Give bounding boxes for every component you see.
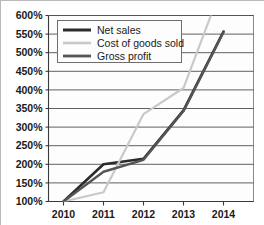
x-tick-label: 2010 bbox=[52, 208, 76, 220]
legend-label: Cost of goods sold bbox=[97, 37, 184, 49]
y-tick-label: 300% bbox=[16, 121, 44, 133]
y-tick-label: 450% bbox=[16, 65, 44, 77]
y-tick-label: 250% bbox=[16, 139, 44, 151]
x-tick-label: 2014 bbox=[212, 208, 236, 220]
x-tick-label: 2011 bbox=[92, 208, 115, 220]
y-tick-label: 350% bbox=[16, 102, 44, 114]
y-tick-label: 200% bbox=[16, 158, 44, 170]
y-axis-tick-labels: 100%150%200%250%300%350%400%450%500%550%… bbox=[16, 9, 44, 207]
x-tick-label: 2012 bbox=[132, 208, 156, 220]
y-tick-label: 600% bbox=[16, 9, 44, 21]
x-tick-label: 2013 bbox=[172, 208, 196, 220]
legend-label: Gross profit bbox=[97, 50, 151, 62]
y-tick-label: 150% bbox=[16, 177, 44, 189]
y-tick-label: 550% bbox=[16, 28, 44, 40]
y-tick-label: 400% bbox=[16, 84, 44, 96]
chart-figure: 100%150%200%250%300%350%400%450%500%550%… bbox=[0, 0, 264, 225]
line-chart: 100%150%200%250%300%350%400%450%500%550%… bbox=[1, 1, 264, 225]
y-tick-label: 500% bbox=[16, 46, 44, 58]
y-tick-label: 100% bbox=[16, 195, 44, 207]
chart-legend: Net salesCost of goods soldGross profit bbox=[58, 21, 185, 63]
legend-label: Net sales bbox=[97, 24, 141, 36]
